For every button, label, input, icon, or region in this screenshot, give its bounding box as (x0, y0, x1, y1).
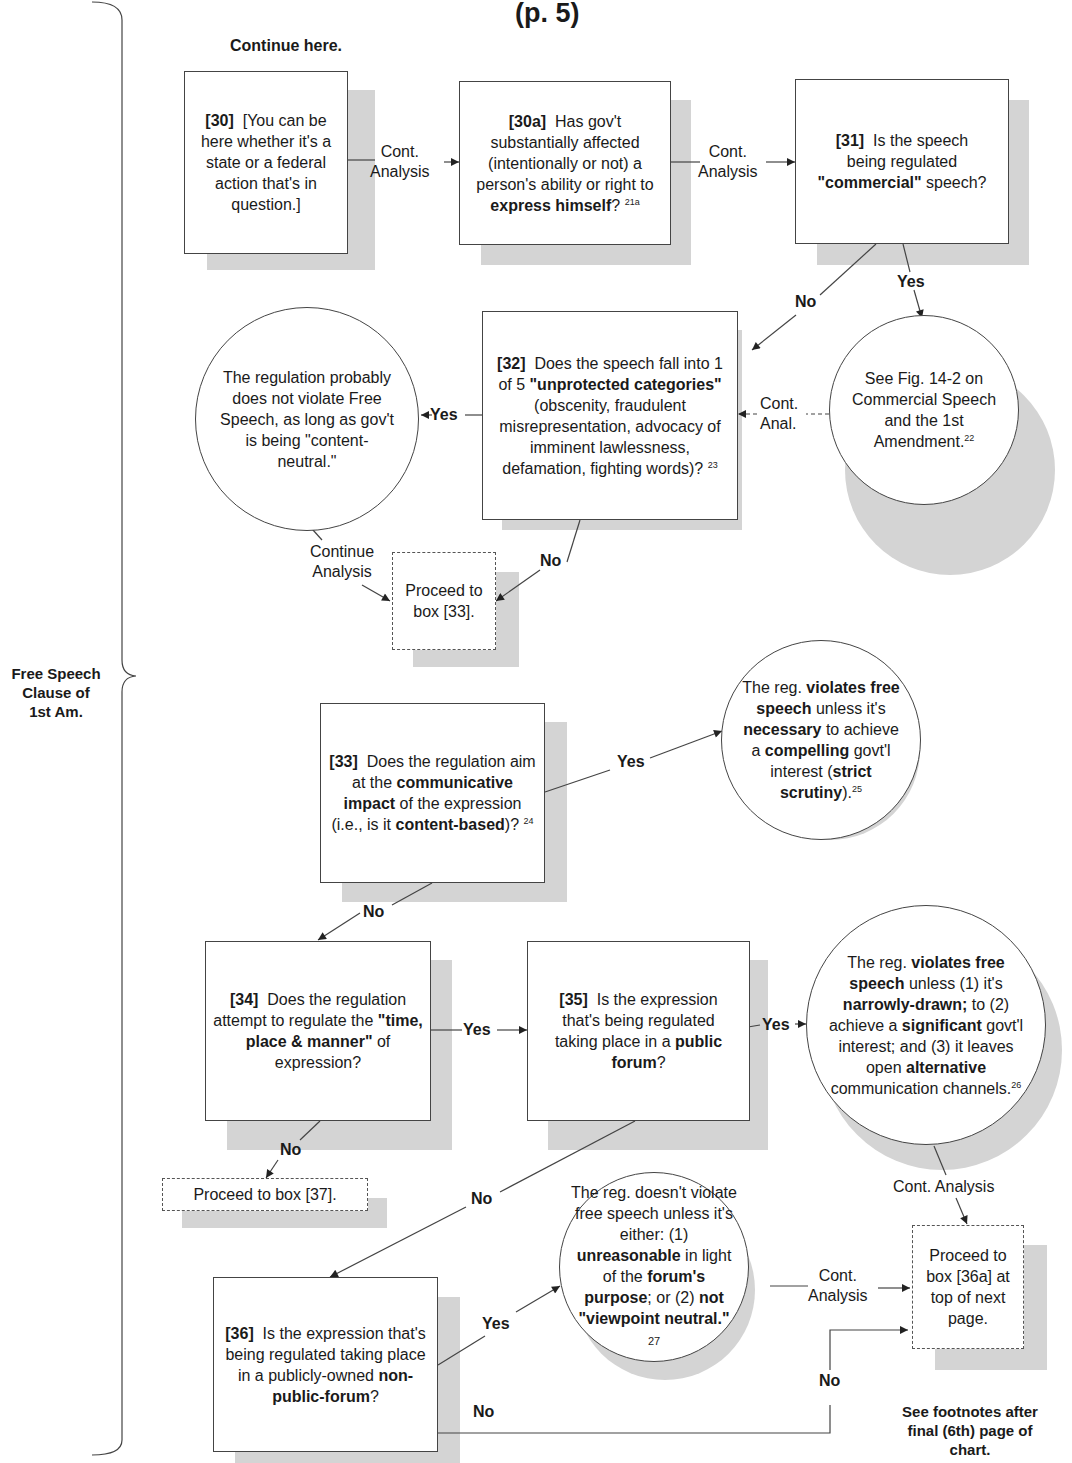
box-text: Has gov't substantially affected (intent… (476, 113, 653, 193)
box-35: [35] Is the expression that's being regu… (527, 941, 750, 1121)
edge-label-line: Analysis (370, 162, 430, 182)
box-34: [34] Does the regulation attempt to regu… (205, 941, 431, 1121)
edge-label-no: No (540, 551, 561, 571)
proceed-text: Proceed to box [33]. (403, 580, 485, 622)
edge-label-cont-analysis: Cont. Analysis (370, 142, 430, 182)
box-32: [32] Does the speech fall into 1 of 5 "u… (482, 311, 738, 520)
box-text: (obscenity, fraudulent misrepresentation… (499, 397, 720, 477)
circle-text: See Fig. 14-2 on Commercial Speech and t… (852, 370, 996, 450)
circle-text-bold: unreasonable (577, 1247, 681, 1264)
edge-label-yes: Yes (430, 405, 458, 425)
circle-text: ; or (2) (647, 1289, 699, 1306)
edge-label-cont-analysis: Cont. Analysis (893, 1177, 994, 1197)
box-text: ? (370, 1388, 379, 1405)
edge-label-line: Cont. (698, 142, 758, 162)
edge-label-yes: Yes (762, 1015, 790, 1035)
box-text-bold: express himself (490, 197, 611, 214)
circle-text: The reg. doesn't violate free speech unl… (571, 1184, 737, 1243)
circle-text: The regulation probably does not violate… (218, 367, 396, 472)
brace-label-line: 1st Am. (0, 702, 112, 721)
edge-label-yes: Yes (897, 272, 925, 292)
circle-text: ). (842, 784, 852, 801)
continue-here-label: Continue here. (230, 37, 342, 55)
box-text: ? (657, 1054, 666, 1071)
edge-label-cont-anal: Cont. Anal. (760, 394, 798, 434)
proceed-text: Proceed to box [36a] at top of next page… (921, 1245, 1015, 1329)
brace-label: Free Speech Clause of 1st Am. (0, 664, 112, 721)
circle-strict-scrutiny: The reg. violates free speech unless it'… (721, 640, 921, 840)
proceed-text: Proceed to box [37]. (193, 1184, 336, 1205)
proceed-to-box-33: Proceed to box [33]. (392, 552, 496, 650)
box-36: [36] Is the expression that's being regu… (213, 1277, 438, 1452)
footnote-ref: 23 (708, 459, 718, 469)
circle-text: unless it's (811, 700, 885, 717)
edge-label-line: Anal. (760, 414, 798, 434)
footnote-ref: 25 (852, 784, 862, 794)
proceed-to-box-37: Proceed to box [37]. (162, 1178, 368, 1211)
circle-text-bold: compelling (765, 742, 849, 759)
box-id: [30] (205, 112, 233, 129)
box-id: [31] (836, 132, 864, 149)
circle-text: unless (1) it's (904, 975, 1002, 992)
footnote-ref: 22 (964, 433, 974, 443)
circle-text: The reg. (742, 679, 806, 696)
edge-label-line: Continue (310, 542, 374, 562)
circle-text: communication channels. (831, 1080, 1012, 1097)
box-text: ? (611, 197, 620, 214)
edge-label-yes: Yes (463, 1020, 491, 1040)
edge-label-line: Analysis (310, 562, 374, 582)
brace-label-line: Free Speech (0, 664, 112, 683)
footnote-line: final (6th) page of (895, 1421, 1045, 1440)
circle-commercial-speech: See Fig. 14-2 on Commercial Speech and t… (829, 315, 1019, 505)
edge-label-yes: Yes (482, 1314, 510, 1334)
edge-label-line: Cont. (808, 1266, 868, 1286)
box-text: )? (505, 816, 519, 833)
box-30: [30] [You can be here whether it's a sta… (184, 71, 348, 254)
edge-label-no: No (363, 902, 384, 922)
edge-label-no: No (795, 292, 816, 312)
edge-label-no: No (473, 1402, 494, 1422)
footnotes-note: See footnotes after final (6th) page of … (895, 1402, 1045, 1459)
circle-text: The reg. (847, 954, 911, 971)
circle-text-bold: alternative (906, 1059, 986, 1076)
box-id: [33] (329, 753, 357, 770)
edge-label-continue-analysis: Continue Analysis (310, 542, 374, 582)
page-title: (p. 5) (515, 0, 580, 29)
brace-label-line: Clause of (0, 683, 112, 702)
box-id: [30a] (509, 113, 546, 130)
box-text-bold: "commercial" (817, 174, 921, 191)
edge-label-line: Cont. (370, 142, 430, 162)
box-33: [33] Does the regulation aim at the comm… (320, 703, 545, 883)
footnote-ref: 24 (524, 816, 534, 826)
edge-label-cont-analysis: Cont. Analysis (698, 142, 758, 182)
circle-text-bold: significant (902, 1017, 982, 1034)
edge-label-line: Analysis (808, 1286, 868, 1306)
box-id: [36] (225, 1325, 253, 1342)
footnote-line: chart. (895, 1440, 1045, 1459)
footnote-ref: 26 (1011, 1079, 1021, 1089)
edge-label-line: Cont. (760, 394, 798, 414)
proceed-to-box-36a: Proceed to box [36a] at top of next page… (912, 1225, 1024, 1349)
circle-non-public-forum: The reg. doesn't violate free speech unl… (559, 1172, 749, 1362)
box-text: speech? (922, 174, 987, 191)
edge-label-no: No (819, 1371, 840, 1391)
box-text: Is the speech being regulated (847, 132, 968, 170)
footnote-line: See footnotes after (895, 1402, 1045, 1421)
footnote-ref: 27 (648, 1335, 660, 1347)
box-id: [35] (559, 991, 587, 1008)
edge-label-line: Analysis (698, 162, 758, 182)
edge-label-no: No (471, 1189, 492, 1209)
box-text-bold: content-based (395, 816, 504, 833)
box-30a: [30a] Has gov't substantially affected (… (459, 81, 671, 245)
edge-label-no: No (280, 1140, 301, 1160)
edge-label-cont-analysis: Cont. Analysis (808, 1266, 868, 1306)
circle-text-bold: narrowly-drawn; (843, 996, 967, 1013)
box-31: [31] Is the speech being regulated "comm… (795, 79, 1009, 244)
edge-label-yes: Yes (617, 752, 645, 772)
circle-text-bold: necessary (743, 721, 821, 738)
circle-no-violation: The regulation probably does not violate… (195, 307, 419, 531)
box-id: [32] (497, 355, 525, 372)
box-id: [34] (230, 991, 258, 1008)
circle-time-place-manner: The reg. violates free speech unless (1)… (806, 905, 1046, 1145)
footnote-ref: 21a (625, 196, 640, 206)
